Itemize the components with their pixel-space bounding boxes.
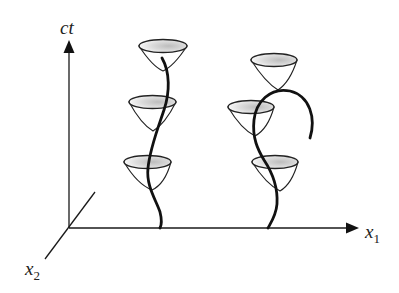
x2-axis-label: x2 — [24, 258, 40, 283]
light-cone — [139, 40, 187, 72]
light-cone — [251, 54, 297, 91]
light-cone-rim — [251, 54, 297, 67]
x1-axis-label: x1 — [364, 221, 380, 246]
light-cone-rim — [252, 156, 298, 169]
light-cone-rim — [139, 40, 187, 53]
light-cone-rim — [228, 101, 274, 114]
x1-axis-arrowhead — [346, 223, 359, 234]
ct-axis-label: ct — [60, 17, 74, 38]
axes — [45, 40, 359, 259]
left-worldline-group — [124, 40, 187, 229]
left-worldline — [148, 58, 169, 228]
ct-axis-arrowhead — [64, 40, 75, 53]
light-cone — [228, 101, 274, 137]
light-cone — [129, 96, 176, 132]
right-worldline-group — [228, 54, 312, 229]
x2-axis — [45, 192, 95, 259]
spacetime-diagram: ct x1 x2 — [0, 0, 399, 293]
light-cone-rim — [129, 96, 176, 109]
